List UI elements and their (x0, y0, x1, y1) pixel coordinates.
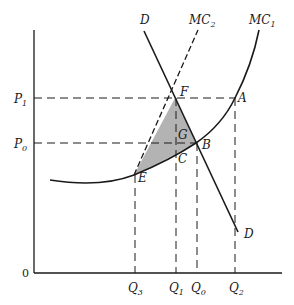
label-q3: Q3 (128, 281, 143, 297)
point-d-end: D (243, 227, 254, 241)
point-a: A (237, 91, 247, 105)
point-f: F (179, 85, 189, 99)
label-p0: P0 (13, 137, 27, 153)
point-b: B (201, 138, 211, 152)
economics-diagram: D MC2 MC1 P1 P0 0 Q3 Q1 Q0 Q2 F A G B C … (0, 0, 294, 305)
label-mc2: MC2 (188, 13, 216, 29)
label-p1: P1 (13, 92, 27, 108)
label-q0: Q0 (191, 281, 206, 297)
label-mc1: MC1 (248, 13, 276, 29)
label-d-top: D (139, 13, 150, 27)
label-origin: 0 (22, 267, 29, 280)
label-q1: Q1 (169, 281, 184, 297)
label-q2: Q2 (229, 281, 244, 297)
point-c: C (178, 152, 187, 166)
point-e: E (137, 171, 147, 185)
point-g: G (178, 128, 188, 142)
